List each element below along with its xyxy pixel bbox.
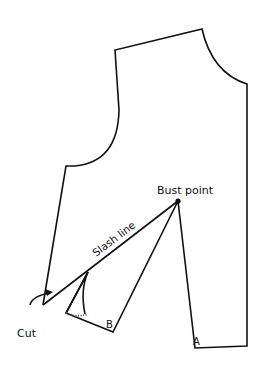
point-a-label: A — [193, 336, 200, 347]
point-b-label: B — [106, 319, 113, 330]
bust-point-label: Bust point — [157, 184, 214, 197]
arrow-head-icon — [45, 289, 53, 296]
cut-label: Cut — [17, 327, 37, 340]
slash-line — [43, 201, 178, 305]
bodice-diagram: Bust point Slash line Cut B A — [0, 0, 267, 373]
bust-point-dot — [175, 198, 180, 203]
